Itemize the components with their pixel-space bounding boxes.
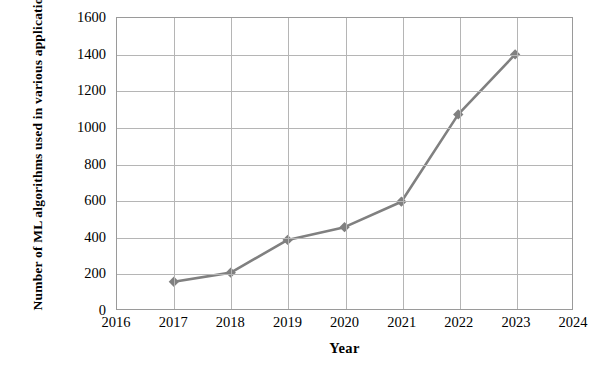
gridline-horizontal: [117, 274, 572, 275]
gridline-horizontal: [117, 55, 572, 56]
y-axis-title-text: Number of ML algorithms used in various …: [30, 10, 47, 310]
x-axis-tick-label: 2017: [159, 314, 188, 331]
y-axis-tick-label: 200: [84, 265, 106, 282]
gridline-vertical: [403, 18, 404, 309]
y-axis-tick-label: 1000: [77, 118, 106, 135]
x-axis-tick-label: 2021: [387, 314, 416, 331]
gridline-vertical: [174, 18, 175, 309]
gridline-horizontal: [117, 91, 572, 92]
x-axis-tick-label: 2020: [330, 314, 359, 331]
y-axis-tick-labels: 02004006008001000120014001600: [62, 17, 112, 310]
gridline-vertical: [231, 18, 232, 309]
x-axis-tick-label: 2019: [273, 314, 302, 331]
gridline-horizontal: [117, 201, 572, 202]
gridline-horizontal: [117, 238, 572, 239]
data-series-layer: 2017: 1502018: 2002019: 3802020: 4502021…: [117, 18, 572, 309]
x-axis-tick-label: 2023: [501, 314, 530, 331]
x-axis-tick-label: 2024: [559, 314, 588, 331]
line-chart-figure: Number of ML algorithms used in various …: [0, 0, 612, 369]
y-axis-tick-label: 1400: [77, 45, 106, 62]
y-axis-tick-label: 600: [84, 192, 106, 209]
gridline-horizontal: [117, 165, 572, 166]
y-axis-tick-label: 1600: [77, 9, 106, 26]
y-axis-tick-label: 800: [84, 155, 106, 172]
x-axis-tick-label: 2016: [102, 314, 131, 331]
gridline-vertical: [517, 18, 518, 309]
y-axis-tick-label: 1200: [77, 82, 106, 99]
x-axis-tick-labels: 201620172018201920202021202220232024: [116, 314, 573, 338]
x-axis-tick-label: 2022: [444, 314, 473, 331]
gridline-vertical: [460, 18, 461, 309]
gridline-vertical: [346, 18, 347, 309]
x-axis-title: Year: [116, 340, 573, 357]
y-axis-tick-label: 400: [84, 228, 106, 245]
data-point-marker: 2020: 450: [339, 222, 349, 232]
plot-area: 2017: 1502018: 2002019: 3802020: 4502021…: [116, 17, 573, 310]
gridline-horizontal: [117, 128, 572, 129]
gridline-vertical: [288, 18, 289, 309]
series-line: [174, 54, 515, 281]
x-axis-tick-label: 2018: [216, 314, 245, 331]
